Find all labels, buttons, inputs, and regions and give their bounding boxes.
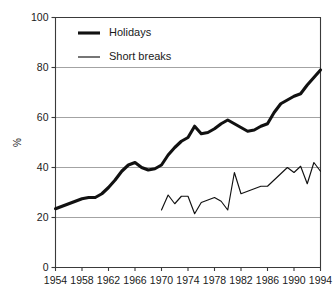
x-tick-label-1974: 1974 [176,274,200,286]
x-tick-label-1962: 1962 [97,274,121,286]
x-tick-label-1954: 1954 [44,274,68,286]
x-tick-label-1978: 1978 [203,274,227,286]
x-tick-label-1986: 1986 [256,274,280,286]
y-tick-label-80: 80 [37,61,49,73]
series-line-short-breaks [162,163,321,214]
y-tick-label-20: 20 [37,211,49,223]
x-tick-label-1966: 1966 [123,274,147,286]
x-tick-label-1990: 1990 [282,274,306,286]
y-tick-label-60: 60 [37,111,49,123]
chart-legend: Holidays Short breaks [78,26,172,62]
gridlines-group [56,68,321,218]
line-chart: 020406080100 195419581962196619701974197… [0,0,336,291]
y-axis-title: % [12,138,23,147]
x-tick-label-1982: 1982 [229,274,253,286]
x-tick-label-1994: 1994 [309,274,333,286]
x-tick-label-1958: 1958 [70,274,94,286]
series-group [56,70,321,214]
x-tick-label-1970: 1970 [150,274,174,286]
x-axis-ticks-group: 1954195819621966197019741978198219861990… [44,268,333,286]
legend-label-holidays: Holidays [109,26,152,38]
y-tick-label-100: 100 [31,11,49,23]
y-tick-label-40: 40 [37,161,49,173]
chart-container: 020406080100 195419581962196619701974197… [0,0,336,291]
series-line-holidays [56,70,321,209]
y-tick-label-0: 0 [43,261,49,273]
axis-frame [56,18,321,268]
legend-label-short-breaks: Short breaks [109,50,172,62]
y-axis-ticks-group: 020406080100 [31,11,56,273]
